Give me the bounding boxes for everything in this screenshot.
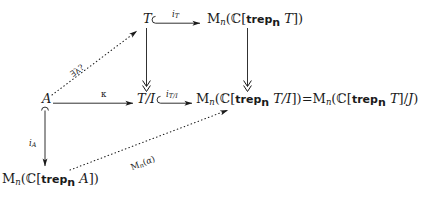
arrow-label-kappa: κ: [101, 90, 106, 99]
commutative-diagram-canvas: T/I -->: [0, 0, 430, 200]
arrow-surjection-MnT-to-MnTI: [244, 28, 252, 92]
node-T-mod-I: T/I: [137, 92, 155, 105]
arrow-label-i-T-over-I: iT/I: [166, 90, 178, 100]
node-Mn-trep-T: Mn(ℂ[trepn T]): [207, 12, 303, 28]
arrow-exists-lambda: [52, 31, 137, 95]
arrow-label-i-A: iA: [29, 139, 36, 149]
node-T: T: [143, 12, 152, 25]
node-Mn-trep-A: Mn(ℂ[trepn A]): [2, 172, 99, 188]
node-Mn-trep-T-mod-I-equality: Mn(ℂ[trepn T/I])=Mn(ℂ[trepn T]/J): [196, 92, 418, 108]
arrow-surjection-T-to-TI: [143, 28, 151, 92]
arrow-label-i-T: iT: [172, 10, 179, 20]
arrow-i-A: [42, 107, 49, 166]
node-A: A: [42, 92, 51, 105]
